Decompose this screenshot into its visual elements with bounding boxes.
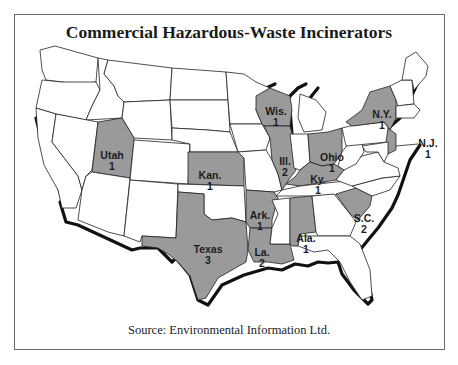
label-south-carolina: S.C.2 bbox=[348, 213, 380, 235]
label-arkansas: Ark.1 bbox=[244, 210, 276, 232]
state-new-mexico bbox=[124, 180, 178, 242]
state-north-dakota bbox=[170, 68, 228, 100]
state-washington bbox=[40, 46, 98, 84]
label-ohio: Ohio1 bbox=[314, 152, 350, 174]
label-illinois: Ill.2 bbox=[272, 156, 298, 178]
state-south-dakota bbox=[170, 100, 230, 132]
label-new-jersey: N.J.1 bbox=[412, 138, 444, 160]
state-arizona bbox=[78, 172, 130, 236]
state-michigan bbox=[298, 94, 326, 132]
state-massachusetts-ct-ri bbox=[396, 104, 420, 118]
label-kentucky: Ky.1 bbox=[305, 174, 331, 196]
label-louisiana: La.2 bbox=[246, 247, 278, 269]
source-note: Source: Environmental Information Ltd. bbox=[0, 323, 458, 338]
label-wisconsin: Wis.1 bbox=[260, 106, 292, 128]
state-colorado bbox=[130, 140, 190, 184]
label-new-york: N.Y.1 bbox=[366, 109, 398, 131]
label-alabama: Ala.1 bbox=[290, 233, 322, 255]
label-kansas: Kan.1 bbox=[190, 170, 230, 192]
label-texas: Texas3 bbox=[186, 244, 230, 266]
label-utah: Utah1 bbox=[94, 150, 130, 172]
